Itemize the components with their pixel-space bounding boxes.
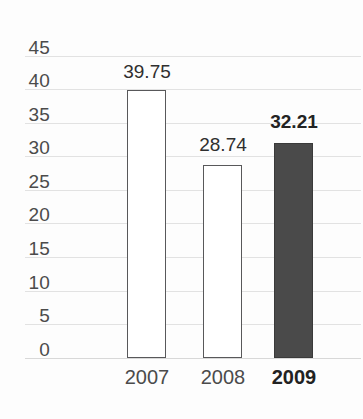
y-axis-tick-label: 0 xyxy=(0,340,50,359)
y-axis-tick-label: 10 xyxy=(0,273,50,292)
y-axis-tick-label: 15 xyxy=(0,239,50,258)
bar-2008[interactable] xyxy=(203,165,242,358)
y-axis-tick-label: 35 xyxy=(0,105,50,124)
bar-value-label-2007: 39.75 xyxy=(97,62,197,81)
y-axis-tick-label: 20 xyxy=(0,205,50,224)
y-axis-tick-label: 25 xyxy=(0,172,50,191)
bar-value-label-2009: 32.21 xyxy=(244,112,344,131)
bar-2007[interactable] xyxy=(127,90,166,358)
y-axis-tick-label: 30 xyxy=(0,138,50,157)
bar-2009[interactable] xyxy=(274,143,313,358)
x-axis-label-2009: 2009 xyxy=(244,367,344,387)
bar-chart: 45 40 35 30 25 20 15 10 5 0 39.75 28.74 … xyxy=(0,0,363,419)
gridline-0-baseline xyxy=(25,358,361,359)
bar-value-label-2008: 28.74 xyxy=(173,135,273,154)
gridline-40 xyxy=(25,89,361,90)
y-axis-tick-label: 5 xyxy=(0,306,50,325)
y-axis-tick-label: 40 xyxy=(0,71,50,90)
gridline-45 xyxy=(25,56,361,57)
y-axis-tick-label: 45 xyxy=(0,38,50,57)
